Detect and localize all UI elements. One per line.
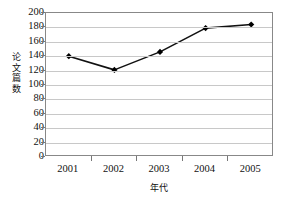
gridline: [46, 128, 272, 129]
y-tick-mark: [41, 70, 45, 71]
x-tick-label: 2002: [103, 163, 124, 175]
x-tick-label: 2003: [149, 163, 170, 175]
line-chart: 论文篇数 020406080100120140160180200 2001200…: [0, 0, 286, 204]
gridline: [46, 71, 272, 72]
x-axis-title: 年代: [45, 181, 273, 194]
series-line: [69, 25, 251, 70]
x-tick-mark: [136, 156, 137, 161]
gridline: [46, 114, 272, 115]
x-tick-label: 2004: [194, 163, 215, 175]
y-tick-mark: [41, 98, 45, 99]
x-tick-mark: [227, 156, 228, 161]
y-tick-mark: [41, 142, 45, 143]
y-tick-mark: [41, 55, 45, 56]
y-tick-mark: [41, 12, 45, 13]
x-axis-tick-labels: 20012002200320042005: [45, 163, 273, 177]
y-tick-mark: [41, 41, 45, 42]
y-tick-mark: [41, 84, 45, 85]
x-tick-mark: [91, 156, 92, 161]
x-tick-label: 2005: [240, 163, 261, 175]
gridline: [46, 42, 272, 43]
data-point-marker: [157, 49, 163, 55]
gridline: [46, 27, 272, 28]
y-tick-mark: [41, 156, 45, 157]
y-tick-mark: [41, 26, 45, 27]
gridline: [46, 99, 272, 100]
series-markers: [66, 21, 255, 73]
y-tick-mark: [41, 113, 45, 114]
gridline: [46, 143, 272, 144]
x-tick-label: 2001: [57, 163, 78, 175]
data-point-marker: [111, 67, 117, 73]
plot-area: [45, 12, 273, 156]
y-tick-mark: [41, 127, 45, 128]
gridline: [46, 85, 272, 86]
data-point-marker: [203, 25, 209, 31]
x-tick-mark: [182, 156, 183, 161]
gridline: [46, 56, 272, 57]
